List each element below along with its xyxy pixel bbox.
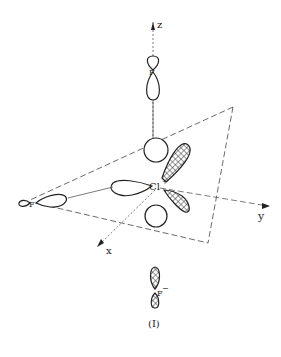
orbital-diagram: z y x F Cl + F F − (I): [0, 0, 281, 357]
figure-caption: (I): [148, 318, 160, 329]
z-axis-label: z: [157, 19, 162, 30]
central-left-lobe: [111, 180, 152, 195]
left-fluorine-label: F: [29, 200, 35, 209]
left-fluorine-orbital: [19, 194, 67, 207]
center-chlorine-label: Cl: [149, 181, 160, 192]
center-charge-label: +: [162, 178, 168, 186]
bottom-fluorine-orbital: [151, 267, 160, 308]
bottom-charge-label: −: [162, 284, 169, 293]
lower-s-orbital: [145, 205, 167, 227]
y-axis-label: y: [257, 210, 265, 223]
top-fluorine-label: F: [149, 68, 155, 77]
x-axis-label: x: [106, 245, 112, 256]
bond-line-left: [68, 187, 113, 198]
top-fluorine-orbital: [147, 56, 160, 100]
molecular-plane: [30, 107, 233, 243]
upper-s-orbital: [144, 138, 168, 162]
hatched-lobe-lower: [164, 190, 189, 212]
